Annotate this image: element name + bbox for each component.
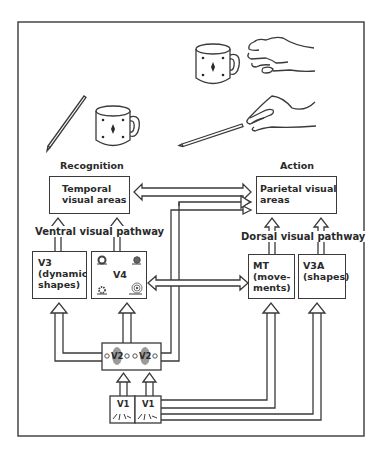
mt-box: MT (move- ments): [248, 254, 295, 299]
v3-label: V3 (dynamic shapes): [38, 257, 87, 290]
v4-label: V4: [113, 269, 127, 280]
mug-grasp-icon: [196, 44, 239, 84]
pencil-icon: [47, 96, 86, 151]
dorsal-pathway-label: Dorsal visual pathway: [240, 231, 366, 242]
v2-to-v4-arrow: [119, 303, 135, 343]
parietal-visual-areas-label: Parietal visual areas: [260, 183, 337, 205]
hand-grasping-pencil-icon: [247, 96, 316, 131]
recognition-header: Recognition: [60, 160, 124, 171]
hand-grasping-mug-icon: [248, 37, 315, 73]
temporal-visual-areas-label: Temporal visual areas: [62, 183, 126, 205]
pencil-grasp-icon: [179, 124, 243, 147]
ventral-pathway-label: Ventral visual pathway: [34, 226, 165, 237]
v2-left-label: V2: [111, 351, 124, 362]
v4-mt-double-arrow: [148, 276, 248, 290]
action-header: Action: [280, 160, 314, 171]
v3a-box: V3A (shapes): [298, 254, 346, 299]
visual-pathways-diagram: .s { fill: none; stroke: #3a3a3a; stroke…: [0, 0, 382, 453]
mug-icon: [96, 106, 139, 146]
v3a-label: V3A (shapes): [303, 260, 349, 282]
parietal-visual-areas-box: Parietal visual areas: [256, 176, 337, 214]
v1-right-label: V1: [142, 399, 155, 410]
v1-to-v2-arrows: [117, 373, 156, 396]
mt-label: MT (move- ments): [253, 260, 291, 293]
v1-left-label: V1: [117, 399, 130, 410]
temporal-parietal-double-arrow: [134, 184, 251, 200]
temporal-visual-areas-box: Temporal visual areas: [49, 176, 130, 214]
v4-box: V4: [91, 251, 147, 299]
v1-to-v3a-arrow: [161, 303, 325, 420]
v2-right-label: V2: [139, 351, 152, 362]
v2-to-v3-arrow: [51, 303, 102, 361]
v3-box: V3 (dynamic shapes): [32, 251, 87, 299]
